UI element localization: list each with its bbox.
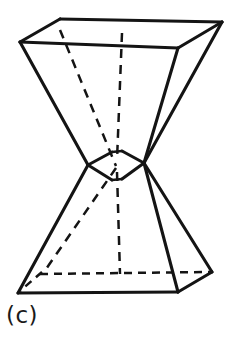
hidden-edge-top-rear-mid: [117, 33, 122, 160]
hidden-edge-bottom-rear-mid: [117, 172, 120, 274]
hidden-edge-bottom-rear-horizontal: [40, 272, 210, 274]
top-edge-left: [20, 19, 60, 42]
top-edge-front: [20, 42, 178, 48]
lower-edge-right-rear: [144, 163, 212, 272]
top-edge-rear: [60, 19, 222, 22]
upper-edge-right-rear: [144, 22, 222, 163]
waist-notch-left: [88, 152, 112, 165]
waist-notch-right-lower: [122, 163, 144, 179]
hidden-edge-top-rear-left: [60, 30, 116, 166]
hidden-edge-bottom-rear-left: [44, 168, 116, 272]
waist-notch-left-lower: [88, 165, 112, 180]
upper-edge-right-front: [144, 48, 178, 163]
hidden-edges-group: [20, 30, 210, 291]
waist-notch-right: [122, 151, 144, 163]
bottom-edge-right-front: [178, 272, 212, 292]
lower-edge-left-front: [18, 165, 88, 293]
figure-canvas: (c): [0, 0, 231, 340]
upper-edge-left-front: [20, 42, 88, 165]
figure-caption: (c): [6, 300, 38, 330]
polyhedron-drawing: [0, 0, 231, 340]
bottom-edge-front: [18, 292, 178, 293]
